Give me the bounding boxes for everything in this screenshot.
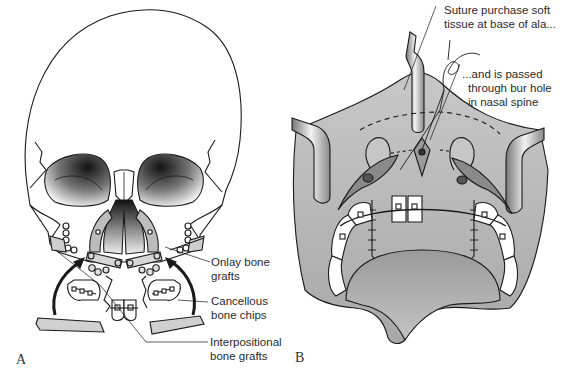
label-bur-hole-3: in nasal spine	[468, 96, 538, 108]
panel-letter-b: B	[295, 350, 304, 365]
figure-canvas: Onlay bone grafts Cancellous bone chips …	[0, 0, 564, 379]
label-onlay-2: grafts	[211, 270, 240, 282]
teeth-right	[148, 280, 180, 300]
label-bur-hole-2: through bur hole	[468, 82, 552, 94]
label-interpositional-1: Interpositional	[210, 336, 282, 348]
plate-left	[363, 174, 373, 182]
orbit-right	[138, 154, 204, 206]
teeth-left	[68, 280, 100, 300]
plate-right	[457, 176, 467, 184]
suture-end	[448, 40, 450, 60]
arrowhead-right	[166, 258, 176, 268]
panel-letter-a: A	[16, 352, 27, 367]
screw	[96, 230, 100, 234]
interpositional-graft-left	[36, 318, 104, 332]
label-cancellous-2: bone chips	[211, 309, 267, 321]
label-suture-purchase-2: tissue at base of ala...	[444, 18, 556, 30]
panel-a-skull-illustration	[25, 10, 241, 342]
label-bur-hole-1: ...and is passed	[462, 68, 543, 80]
label-interpositional-2: bone grafts	[210, 350, 268, 362]
palate	[346, 250, 500, 340]
screw	[148, 230, 152, 234]
label-onlay-1: Onlay bone	[211, 256, 270, 268]
orbit-left	[45, 154, 111, 206]
label-cancellous-1: Cancellous	[211, 295, 268, 307]
label-suture-purchase-1: Suture purchase soft	[444, 4, 551, 16]
interpositional-graft-right	[150, 316, 204, 334]
panel-b-intraoral-illustration	[292, 6, 548, 344]
